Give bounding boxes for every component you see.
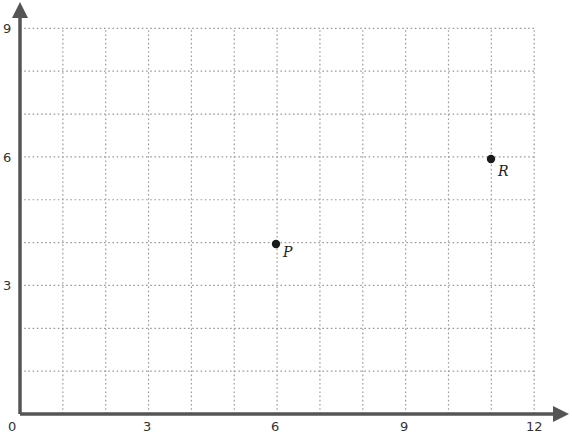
x-axis-arrow-icon (553, 406, 569, 422)
coordinate-plane: 0 3 6 9 12 9 6 3 P R (0, 0, 572, 437)
point-p-label: P (282, 244, 293, 260)
grid (20, 28, 534, 414)
x-tick-label-9: 9 (400, 419, 408, 434)
x-tick-label-3: 3 (143, 419, 151, 434)
y-tick-label-3: 3 (3, 278, 11, 293)
y-tick-label-6: 6 (3, 150, 11, 165)
y-axis-arrow-icon (12, 2, 28, 18)
x-tick-label-6: 6 (271, 419, 279, 434)
y-tick-label-9: 9 (3, 21, 11, 36)
point-r-marker (487, 155, 495, 163)
point-p-marker (272, 240, 280, 248)
point-r-label: R (497, 163, 509, 179)
origin-label: 0 (8, 419, 16, 434)
x-tick-label-12: 12 (526, 419, 543, 434)
